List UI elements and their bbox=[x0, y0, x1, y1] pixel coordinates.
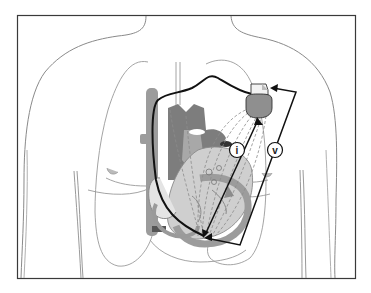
voltage-label: v bbox=[268, 143, 283, 158]
cardiac-device-diagram: i v bbox=[0, 0, 371, 293]
svg-text:i: i bbox=[236, 145, 239, 156]
svg-text:v: v bbox=[272, 145, 278, 156]
current-label: i bbox=[230, 143, 245, 158]
device-can bbox=[246, 94, 272, 118]
